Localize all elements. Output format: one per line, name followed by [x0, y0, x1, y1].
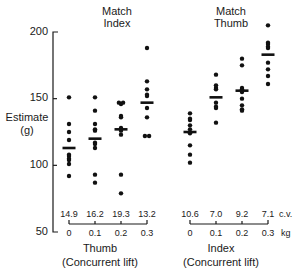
data-points-layer	[63, 23, 275, 195]
plot-area	[0, 0, 301, 271]
figure-scatter-estimate-vs-concurrent-lift: Match Index Match Thumb 200 150 100 50 E…	[0, 0, 301, 271]
axes-layer	[53, 32, 268, 232]
